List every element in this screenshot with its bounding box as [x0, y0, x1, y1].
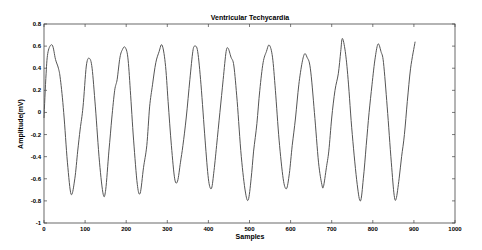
- x-tick-label: 100: [80, 226, 91, 232]
- line-chart: Ventricular Techycardia 0100200300400500…: [0, 0, 482, 250]
- y-tick-label: 0.6: [33, 43, 42, 49]
- y-tick-label: 0: [38, 109, 42, 115]
- x-tick-label: 800: [368, 226, 379, 232]
- y-tick-label: -1: [36, 220, 42, 226]
- y-axis-label: Amplitude(mV): [17, 99, 25, 149]
- y-tick-label: 0.4: [33, 65, 42, 71]
- chart-title: Ventricular Techycardia: [211, 14, 290, 22]
- x-tick-label: 200: [121, 226, 132, 232]
- x-tick-label: 0: [42, 226, 46, 232]
- x-tick-label: 900: [409, 226, 420, 232]
- x-tick-label: 500: [244, 226, 255, 232]
- y-tick-label: -0.4: [31, 154, 42, 160]
- y-tick-label: -0.6: [31, 176, 42, 182]
- x-tick-label: 700: [327, 226, 338, 232]
- y-tick-label: 0.2: [33, 87, 42, 93]
- y-tick-label: 0.8: [33, 21, 42, 27]
- x-tick-label: 1000: [448, 226, 462, 232]
- x-tick-label: 300: [162, 226, 173, 232]
- x-tick-label: 400: [203, 226, 214, 232]
- y-tick-label: -0.8: [31, 198, 42, 204]
- chart-container: Ventricular Techycardia 0100200300400500…: [0, 0, 482, 250]
- x-axis-label: Samples: [236, 233, 265, 241]
- y-tick-label: -0.2: [31, 132, 42, 138]
- x-tick-label: 600: [286, 226, 297, 232]
- signal-line: [44, 38, 415, 201]
- axes: 01002003004005006007008009001000-1-0.8-0…: [31, 21, 463, 232]
